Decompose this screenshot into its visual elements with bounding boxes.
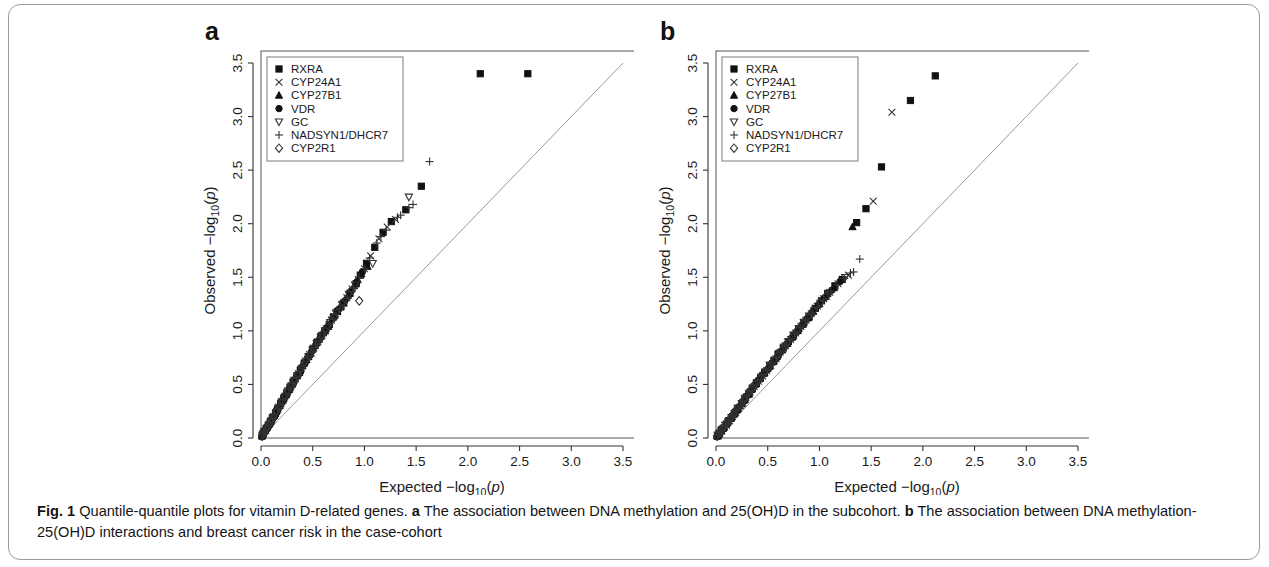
x-tick-label: 1.0 bbox=[355, 454, 374, 469]
x-tick-label: 0.0 bbox=[252, 454, 271, 469]
qq-plot-b: 0.00.51.01.52.02.53.03.5Expected −log10(… bbox=[464, 5, 1089, 495]
x-tick-label: 3.0 bbox=[1017, 454, 1036, 469]
x-tick-label: 1.0 bbox=[810, 454, 829, 469]
x-tick-label: 3.5 bbox=[1069, 454, 1088, 469]
data-point bbox=[854, 220, 860, 226]
data-point bbox=[907, 97, 913, 103]
legend-marker-filled-circle bbox=[276, 105, 282, 111]
figure-card: a 0.00.51.01.52.02.53.03.5Expected −log1… bbox=[8, 4, 1260, 560]
svg-text:Expected −log10(p): Expected −log10(p) bbox=[834, 478, 960, 495]
x-tick-label: 0.0 bbox=[707, 454, 726, 469]
caption-a-text: The association between DNA methylation … bbox=[424, 503, 901, 519]
legend-label: CYP24A1 bbox=[746, 76, 797, 88]
y-tick-label: 3.5 bbox=[685, 54, 700, 73]
data-point bbox=[878, 164, 884, 170]
data-point bbox=[837, 278, 843, 284]
data-point bbox=[856, 255, 864, 263]
legend-label: CYP27B1 bbox=[291, 89, 342, 101]
data-point bbox=[405, 194, 412, 201]
caption-a-marker: a bbox=[412, 503, 420, 519]
y-tick-label: 0.0 bbox=[230, 429, 245, 448]
panel-b: b 0.00.51.01.52.02.53.03.5Expected −log1… bbox=[464, 5, 1089, 495]
y-tick-label: 3.5 bbox=[230, 54, 245, 73]
y-tick-label: 1.5 bbox=[230, 268, 245, 287]
caption-b-marker: b bbox=[905, 503, 914, 519]
x-tick-label: 2.0 bbox=[913, 454, 932, 469]
y-tick-label: 0.5 bbox=[685, 375, 700, 394]
y-tick-label: 0.5 bbox=[230, 375, 245, 394]
legend-label: NADSYN1/DHCR7 bbox=[291, 129, 388, 141]
x-axis-title: Expected −log10(p) bbox=[834, 478, 960, 495]
figure-label: Fig. 1 bbox=[37, 503, 75, 519]
legend-label: RXRA bbox=[746, 63, 778, 75]
legend-label: CYP2R1 bbox=[746, 142, 791, 154]
legend-label: CYP2R1 bbox=[291, 142, 336, 154]
legend-label: CYP27B1 bbox=[746, 89, 797, 101]
legend-label: VDR bbox=[746, 103, 770, 115]
legend-marker-filled-square bbox=[731, 66, 737, 72]
legend-marker-filled-square bbox=[276, 66, 282, 72]
x-tick-label: 1.5 bbox=[407, 454, 426, 469]
data-point bbox=[418, 183, 424, 189]
y-axis: 0.00.51.01.52.02.53.03.5 bbox=[685, 54, 708, 448]
data-point bbox=[888, 109, 895, 116]
data-point bbox=[932, 73, 938, 79]
caption-main: Quantile-quantile plots for vitamin D-re… bbox=[79, 503, 408, 519]
plot-legend: RXRACYP24A1CYP27B1VDRGCNADSYN1/DHCR7CYP2… bbox=[722, 57, 858, 161]
legend-label: VDR bbox=[291, 103, 315, 115]
x-tick-label: 1.5 bbox=[862, 454, 881, 469]
y-tick-label: 2.5 bbox=[685, 161, 700, 180]
data-point bbox=[863, 206, 869, 212]
y-tick-label: 2.0 bbox=[230, 214, 245, 233]
y-tick-label: 1.5 bbox=[685, 268, 700, 287]
y-tick-label: 2.0 bbox=[685, 214, 700, 233]
data-point bbox=[870, 198, 877, 205]
data-point bbox=[369, 261, 376, 268]
legend-label: NADSYN1/DHCR7 bbox=[746, 129, 843, 141]
y-tick-label: 0.0 bbox=[685, 429, 700, 448]
svg-text:Observed −log10(p): Observed −log10(p) bbox=[656, 186, 676, 314]
y-tick-label: 2.5 bbox=[230, 161, 245, 180]
legend-label: GC bbox=[291, 116, 308, 128]
data-point bbox=[384, 224, 391, 231]
legend-marker-filled-circle bbox=[731, 105, 737, 111]
y-tick-label: 1.0 bbox=[685, 321, 700, 340]
plot-legend: RXRACYP24A1CYP27B1VDRGCNADSYN1/DHCR7CYP2… bbox=[267, 57, 403, 161]
y-axis-title: Observed −log10(p) bbox=[201, 186, 221, 314]
y-tick-label: 1.0 bbox=[230, 321, 245, 340]
y-axis: 0.00.51.01.52.02.53.03.5 bbox=[230, 54, 253, 448]
y-tick-label: 3.0 bbox=[230, 107, 245, 126]
y-axis-title: Observed −log10(p) bbox=[656, 186, 676, 314]
x-tick-label: 2.5 bbox=[965, 454, 984, 469]
legend-label: RXRA bbox=[291, 63, 323, 75]
legend-label: CYP24A1 bbox=[291, 76, 342, 88]
x-axis: 0.00.51.01.52.02.53.03.5 bbox=[707, 446, 1088, 469]
svg-text:Observed −log10(p): Observed −log10(p) bbox=[201, 186, 221, 314]
data-point bbox=[426, 158, 434, 166]
x-tick-label: 0.5 bbox=[758, 454, 777, 469]
legend-label: GC bbox=[746, 116, 763, 128]
figure-caption: Fig. 1 Quantile-quantile plots for vitam… bbox=[37, 501, 1237, 542]
y-tick-label: 3.0 bbox=[685, 107, 700, 126]
data-point bbox=[356, 297, 363, 305]
x-tick-label: 0.5 bbox=[303, 454, 322, 469]
